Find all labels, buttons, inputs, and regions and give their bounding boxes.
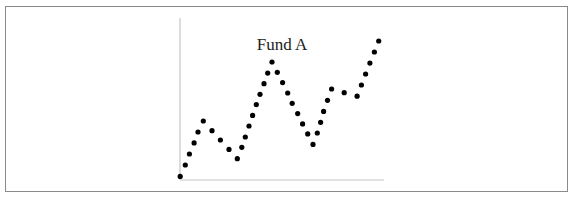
data-point (367, 61, 372, 66)
data-point (201, 118, 206, 123)
data-point (192, 140, 197, 145)
data-point (310, 142, 315, 147)
data-point (261, 81, 266, 86)
data-point (246, 123, 251, 128)
data-point (257, 92, 262, 97)
data-point (305, 131, 310, 136)
data-point (239, 145, 244, 150)
data-point (329, 86, 334, 91)
data-point (315, 130, 320, 135)
data-point (290, 101, 295, 106)
data-point (226, 147, 231, 152)
data-point (178, 174, 183, 179)
data-point (300, 121, 305, 126)
data-point (280, 80, 285, 85)
data-point (275, 70, 280, 75)
data-point (376, 38, 381, 43)
data-point (265, 71, 270, 76)
data-point (187, 151, 192, 156)
data-point (243, 134, 248, 139)
data-point (318, 120, 323, 125)
data-point (363, 71, 368, 76)
data-point (359, 82, 364, 87)
data-point (254, 102, 259, 107)
data-point (355, 94, 360, 99)
data-point (250, 113, 255, 118)
data-point (325, 98, 330, 103)
data-point (372, 49, 377, 54)
data-point (342, 90, 347, 95)
data-point (235, 156, 240, 161)
data-point (295, 111, 300, 116)
data-point (209, 128, 214, 133)
data-point (321, 109, 326, 114)
data-point (218, 137, 223, 142)
data-point (285, 90, 290, 95)
data-point (269, 59, 274, 64)
data-point (183, 162, 188, 167)
data-points (178, 38, 382, 179)
data-point (195, 129, 200, 134)
chart-title: Fund A (257, 35, 308, 54)
chart: Fund A (0, 0, 572, 200)
